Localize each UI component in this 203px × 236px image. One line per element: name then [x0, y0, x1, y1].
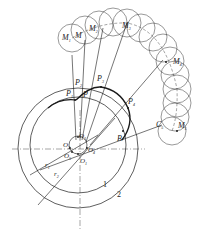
label-o4: O4	[88, 146, 95, 155]
label-c5: C5	[156, 120, 163, 130]
label-r2: r2	[54, 170, 59, 179]
label-m5: M5	[177, 121, 187, 131]
label-b: B	[117, 134, 122, 143]
line-r2	[38, 118, 115, 205]
label-o5: O5	[64, 152, 71, 161]
label-m4: M4	[172, 57, 182, 67]
label-circle-1: 1	[103, 180, 107, 189]
label-m3: M3	[121, 21, 131, 31]
label-circle-2: 2	[117, 190, 121, 199]
label-r1: r1	[45, 161, 50, 170]
label-p2: P2	[74, 78, 82, 88]
label-p1: P1	[65, 89, 73, 99]
label-p3: P3	[96, 74, 104, 84]
base-arc-bold	[48, 100, 76, 108]
label-m: M	[74, 31, 83, 40]
label-m2: M2	[88, 24, 98, 34]
label-p: P	[82, 90, 88, 99]
inner-circle-1	[30, 97, 126, 193]
label-o2: O2	[63, 141, 70, 150]
label-o3: O3	[79, 132, 86, 141]
label-p4: P4	[127, 97, 135, 107]
label-o1: O1	[80, 157, 87, 166]
cam-diagram: M1 M M2 M3 M4 M5 P1 P2 P P3 P4 B C5 O2 O…	[0, 0, 203, 236]
label-m1: M1	[61, 33, 71, 43]
